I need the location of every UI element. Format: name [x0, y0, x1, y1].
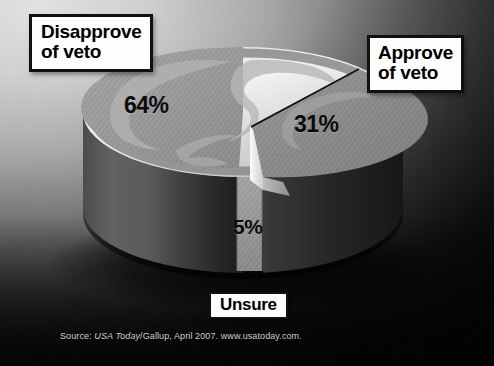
value-disapprove-percent: 64% — [124, 92, 169, 119]
source-prefix: Source: — [60, 331, 94, 341]
value-unsure-percent: 5% — [233, 215, 262, 239]
source-attribution: Source: USA Today/Gallup, April 2007. ww… — [60, 331, 302, 341]
label-unsure: Unsure — [209, 292, 288, 319]
source-suffix: /Gallup, April 2007. www.usatoday.com. — [140, 331, 302, 341]
infographic-canvas: Disapprove of veto Approve of veto Unsur… — [0, 0, 494, 366]
label-disapprove-of-veto: Disapprove of veto — [29, 14, 153, 72]
label-approve-of-veto: Approve of veto — [367, 35, 464, 93]
value-approve-percent: 31% — [294, 111, 339, 138]
source-publication: USA Today — [94, 331, 140, 341]
